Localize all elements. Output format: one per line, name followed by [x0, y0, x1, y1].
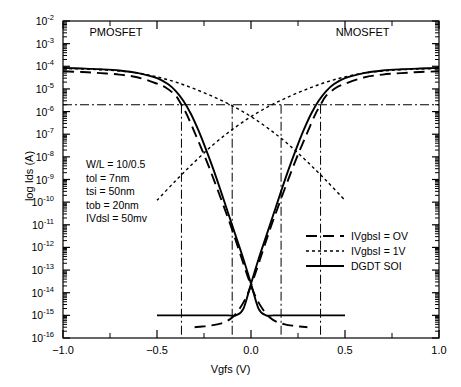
x-tick-label: 1.0 — [409, 344, 461, 356]
y-tick-label: 10-3 — [14, 36, 54, 50]
y-tick-label: 10-7 — [14, 126, 54, 140]
legend-swatch-solid — [305, 260, 345, 272]
parameter-annotations: W/L = 10/0.5tol = 7nmtsi = 50nmtob = 20n… — [86, 158, 147, 226]
y-tick-label: 10-12 — [14, 239, 54, 253]
y-tick-label: 10-16 — [14, 330, 54, 344]
x-tick-label: 0.0 — [221, 344, 281, 356]
chart-svg — [0, 0, 461, 387]
y-tick-label: 10-14 — [14, 285, 54, 299]
chart-legend: IVgbsI = OVIVgbsI = 1VDGDT SOI — [305, 228, 408, 273]
legend-swatch-dotted — [305, 245, 345, 257]
annotation-line: tsi = 50nm — [86, 185, 147, 199]
annotation-line: tob = 20nm — [86, 199, 147, 213]
y-tick-label: 10-15 — [14, 307, 54, 321]
annotation-line: tol = 7nm — [86, 172, 147, 186]
y-tick-label: 10-9 — [14, 172, 54, 186]
legend-item: IVgbsI = 1V — [305, 243, 408, 258]
y-tick-label: 10-5 — [14, 81, 54, 95]
legend-label: DGDT SOI — [345, 259, 402, 274]
legend-item: IVgbsI = OV — [305, 228, 408, 243]
legend-swatch-dashed — [305, 230, 345, 242]
x-axis-label: Vgfs (V) — [0, 363, 461, 375]
y-tick-label: 10-8 — [14, 149, 54, 163]
y-tick-label: 10-2 — [14, 13, 54, 27]
y-tick-label: 10-13 — [14, 262, 54, 276]
legend-item: DGDT SOI — [305, 258, 408, 273]
region-label-pmosfet: PMOSFET — [89, 26, 142, 38]
figure-caption — [0, 378, 461, 387]
annotation-line: IVdsl = 50mv — [86, 212, 147, 226]
legend-label: IVgbsI = 1V — [345, 244, 406, 259]
legend-label: IVgbsI = OV — [345, 229, 408, 244]
region-label-nmosfet: NMOSFET — [336, 26, 390, 38]
figure-container: log Ids (A) Vgfs (V) 10-210-310-410-510-… — [0, 0, 461, 387]
y-tick-label: 10-6 — [14, 104, 54, 118]
y-tick-label: 10-10 — [14, 194, 54, 208]
y-tick-label: 10-11 — [14, 217, 54, 231]
x-tick-label: −1.0 — [33, 344, 93, 356]
annotation-line: W/L = 10/0.5 — [86, 158, 147, 172]
x-tick-label: 0.5 — [315, 344, 375, 356]
y-tick-label: 10-4 — [14, 58, 54, 72]
x-tick-label: −0.5 — [127, 344, 187, 356]
